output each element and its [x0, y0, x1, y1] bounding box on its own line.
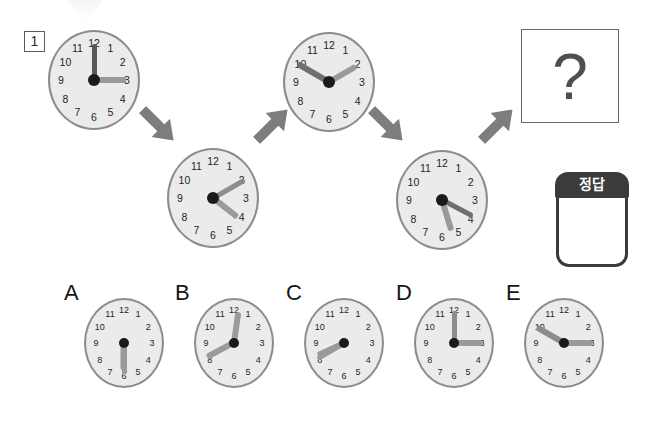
clock-numeral-7: 7 [75, 107, 81, 118]
clock-numeral-11: 11 [325, 310, 334, 319]
clock-numeral-10: 10 [95, 322, 105, 331]
clock-numeral-9: 9 [58, 75, 64, 86]
clock-center-pin [323, 76, 335, 88]
clock-numeral-3: 3 [472, 195, 478, 206]
clock-center-pin [436, 194, 448, 206]
clock-numeral-3: 3 [259, 339, 264, 348]
clock-numeral-5: 5 [465, 367, 470, 376]
clock-numeral-5: 5 [575, 367, 580, 376]
clock-numeral-11: 11 [307, 45, 318, 56]
option-letter-c: C [286, 282, 302, 304]
clock-numeral-9: 9 [93, 339, 98, 348]
clock-numeral-9: 9 [293, 77, 299, 88]
clock-numeral-10: 10 [179, 174, 191, 185]
clock-numeral-7: 7 [194, 225, 200, 236]
clock-numeral-6: 6 [231, 372, 236, 381]
clock-numeral-5: 5 [227, 225, 233, 236]
clock-numeral-11: 11 [191, 161, 202, 172]
clock-numeral-10: 10 [60, 56, 72, 67]
clock-numeral-2: 2 [146, 322, 151, 331]
arrow-up-right-2 [472, 100, 521, 149]
clock-numeral-12: 12 [323, 40, 335, 51]
clock-numeral-10: 10 [425, 322, 435, 331]
option-letter-d: D [396, 282, 412, 304]
clock-numeral-6: 6 [439, 232, 445, 243]
clock-numeral-4: 4 [239, 211, 245, 222]
clock-numeral-7: 7 [423, 227, 429, 238]
clock-center-pin [559, 338, 569, 348]
clock-numeral-6: 6 [341, 372, 346, 381]
option-clock-d[interactable]: 121234567891011 [414, 298, 494, 388]
clock-numeral-5: 5 [108, 107, 114, 118]
clock-numeral-3: 3 [149, 339, 154, 348]
clock-numeral-8: 8 [297, 95, 303, 106]
clock-numeral-9: 9 [423, 339, 428, 348]
clock-numeral-10: 10 [408, 176, 420, 187]
problem-number-badge: 1 [24, 31, 45, 52]
clock-center-pin [339, 338, 349, 348]
clock-numeral-4: 4 [146, 355, 151, 364]
option-letter-e: E [506, 282, 521, 304]
answer-box-label: 정답 [555, 172, 629, 198]
clock-numeral-1: 1 [355, 310, 360, 319]
clock-numeral-12: 12 [119, 306, 129, 315]
clock-numeral-7: 7 [217, 367, 222, 376]
clock-numeral-6: 6 [326, 114, 332, 125]
clock-numeral-1: 1 [575, 310, 580, 319]
sequence-clock-3[interactable]: 121234567891011 [283, 32, 375, 132]
sequence-clock-1[interactable]: 121234567891011 [48, 30, 140, 130]
clock-numeral-7: 7 [107, 367, 112, 376]
arrow-down-right-1 [133, 100, 182, 149]
option-letter-a: A [64, 282, 79, 304]
clock-numeral-7: 7 [547, 367, 552, 376]
clock-numeral-8: 8 [537, 355, 542, 364]
clock-numeral-8: 8 [62, 93, 68, 104]
decorative-chevron-icon [62, 0, 108, 22]
question-card[interactable]: ? [521, 29, 619, 123]
clock-numeral-9: 9 [406, 195, 412, 206]
clock-numeral-11: 11 [72, 43, 83, 54]
clock-numeral-9: 9 [203, 339, 208, 348]
clock-numeral-11: 11 [435, 310, 444, 319]
clock-numeral-6: 6 [210, 230, 216, 241]
sequence-clock-2[interactable]: 121234567891011 [167, 148, 259, 248]
clock-center-pin [88, 74, 100, 86]
clock-numeral-10: 10 [205, 322, 215, 331]
clock-numeral-2: 2 [586, 322, 591, 331]
clock-numeral-11: 11 [215, 310, 224, 319]
clock-numeral-4: 4 [476, 355, 481, 364]
clock-numeral-5: 5 [343, 109, 349, 120]
clock-numeral-9: 9 [533, 339, 538, 348]
clock-numeral-7: 7 [327, 367, 332, 376]
clock-numeral-6: 6 [561, 372, 566, 381]
clock-numeral-4: 4 [120, 93, 126, 104]
worksheet-canvas: 1 12123456789101112123456789101112123456… [0, 0, 660, 430]
sequence-clock-4[interactable]: 121234567891011 [396, 150, 488, 250]
clock-center-pin [449, 338, 459, 348]
clock-numeral-3: 3 [359, 77, 365, 88]
clock-numeral-5: 5 [245, 367, 250, 376]
clock-numeral-7: 7 [437, 367, 442, 376]
option-clock-b[interactable]: 121234567891011 [194, 298, 274, 388]
option-clock-a[interactable]: 121234567891011 [84, 298, 164, 388]
clock-numeral-1: 1 [135, 310, 140, 319]
clock-numeral-1: 1 [343, 45, 349, 56]
clock-numeral-3: 3 [243, 193, 249, 204]
clock-numeral-2: 2 [366, 322, 371, 331]
clock-numeral-12: 12 [436, 158, 448, 169]
clock-center-pin [229, 338, 239, 348]
clock-numeral-1: 1 [227, 161, 233, 172]
option-clock-e[interactable]: 121234567891011 [524, 298, 604, 388]
clock-numeral-12: 12 [559, 306, 569, 315]
option-letter-b: B [175, 282, 190, 304]
option-clock-c[interactable]: 121234567891011 [304, 298, 384, 388]
clock-center-pin [119, 338, 129, 348]
clock-numeral-1: 1 [108, 43, 114, 54]
clock-numeral-8: 8 [410, 213, 416, 224]
clock-center-pin [207, 192, 219, 204]
clock-numeral-4: 4 [366, 355, 371, 364]
clock-numeral-12: 12 [207, 156, 219, 167]
answer-box[interactable]: 정답 [556, 173, 628, 267]
clock-numeral-5: 5 [355, 367, 360, 376]
clock-numeral-12: 12 [339, 306, 349, 315]
